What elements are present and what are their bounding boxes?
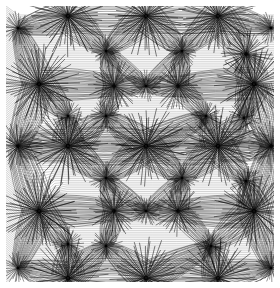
pattern-plot-area [6, 6, 274, 282]
radiating-star-lattice-svg [6, 6, 274, 282]
artwork-canvas [0, 0, 280, 288]
